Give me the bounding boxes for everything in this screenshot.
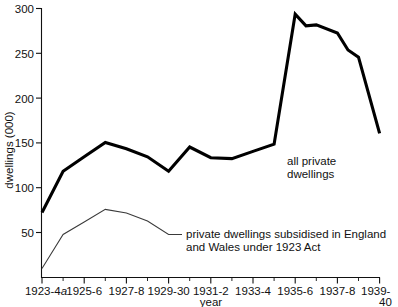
x-tick-label-3: 1929-30 bbox=[147, 285, 189, 297]
x-tick-label-2: 1927-8 bbox=[108, 285, 144, 297]
annotation-subsidised-line2: and Wales under 1923 Act bbox=[186, 241, 321, 253]
x-tick-label-7: 1937-8 bbox=[319, 285, 355, 297]
line-chart: dwellings (000) 300 250 200 150 100 50 bbox=[0, 0, 398, 307]
y-axis-title: dwellings (000) bbox=[3, 111, 15, 189]
series-all-private-dwellings bbox=[42, 14, 380, 212]
y-tick-label-200: 200 bbox=[15, 93, 34, 105]
y-tick-label-250: 250 bbox=[15, 48, 34, 60]
chart-container: dwellings (000) 300 250 200 150 100 50 bbox=[0, 0, 398, 307]
annotation-subsidised-line1: private dwellings subsidised in England bbox=[186, 228, 386, 240]
y-tick-label-300: 300 bbox=[15, 3, 34, 15]
x-tick-label-0: 1923-4a bbox=[25, 285, 67, 297]
y-axis-ticks bbox=[36, 9, 42, 233]
annotation-all-private-dwellings-line2: dwellings bbox=[287, 168, 335, 180]
y-tick-label-150: 150 bbox=[15, 137, 34, 149]
x-tick-label-6: 1935-6 bbox=[277, 285, 313, 297]
x-tick-label-5: 1933-4 bbox=[235, 285, 271, 297]
y-tick-label-50: 50 bbox=[21, 227, 34, 239]
y-tick-label-100: 100 bbox=[15, 182, 34, 194]
series-subsidised-dwellings bbox=[42, 209, 182, 268]
x-axis-ticks bbox=[42, 278, 380, 284]
annotation-all-private-dwellings-line1: all private bbox=[287, 155, 336, 167]
x-tick-label-8-line2: 40 bbox=[379, 296, 392, 307]
x-tick-label-1: 1925-6 bbox=[66, 285, 102, 297]
x-axis-title: year bbox=[200, 296, 223, 307]
